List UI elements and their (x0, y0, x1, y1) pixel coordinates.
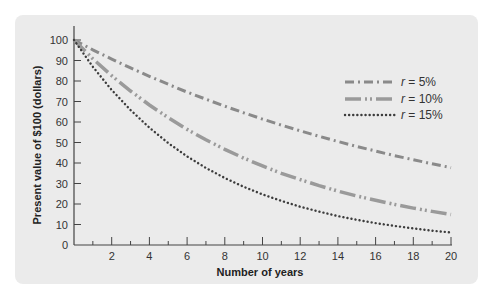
legend-label: r = 10% (401, 92, 443, 106)
y-tick-label: 10 (56, 219, 68, 231)
x-tick-label: 16 (369, 250, 381, 262)
x-tick-label: 4 (146, 250, 152, 262)
y-tick-label: 0 (62, 239, 68, 251)
x-tick-label: 8 (222, 250, 228, 262)
y-tick-label: 70 (56, 96, 68, 108)
x-axis-title: Number of years (217, 266, 304, 278)
x-tick-label: 20 (445, 250, 457, 262)
y-tick-label: 90 (56, 55, 68, 67)
x-tick-label: 12 (294, 250, 306, 262)
y-tick-label: 80 (56, 75, 68, 87)
y-tick-label: 60 (56, 116, 68, 128)
series-line-1 (74, 40, 451, 168)
y-tick-label: 100 (50, 34, 68, 46)
y-tick-label: 30 (56, 178, 68, 190)
legend-label: r = 15% (401, 108, 443, 122)
y-axis-title: Present value of $100 (dollars) (31, 65, 43, 224)
x-tick-label: 6 (184, 250, 190, 262)
x-tick-label: 18 (407, 250, 419, 262)
y-tick-label: 20 (56, 198, 68, 210)
x-tick-label: 10 (256, 250, 268, 262)
legend-label: r = 5% (401, 75, 436, 89)
y-tick-label: 40 (56, 157, 68, 169)
line-chart: 01020304050607080901002468101214161820 r… (0, 0, 492, 297)
legend: r = 5%r = 10%r = 15% (345, 75, 443, 122)
x-tick-label: 14 (332, 250, 344, 262)
x-tick-label: 2 (109, 250, 115, 262)
y-tick-label: 50 (56, 137, 68, 149)
series-line-2 (74, 40, 451, 215)
series-group (74, 40, 451, 233)
